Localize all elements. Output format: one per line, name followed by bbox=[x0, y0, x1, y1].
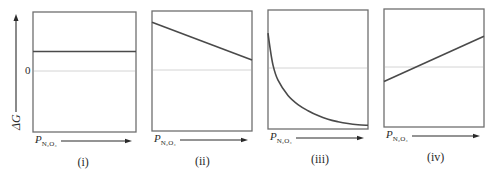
x-axis-label-base: P bbox=[386, 128, 393, 140]
delta-g-vs-pressure-figure bbox=[0, 0, 498, 182]
x-axis-label: PN₂O₄ bbox=[154, 132, 176, 147]
x-axis-arrowhead-icon bbox=[125, 139, 132, 144]
panel-iii bbox=[268, 10, 368, 140]
y-axis-arrowhead-icon bbox=[14, 14, 19, 21]
y-axis-label: ΔG bbox=[9, 114, 24, 130]
x-axis-label: PN₂O₄ bbox=[35, 133, 57, 148]
panel-label-ii: (ii) bbox=[195, 154, 210, 169]
panel-iv bbox=[384, 9, 484, 138]
x-axis-arrowhead-icon bbox=[241, 138, 248, 143]
plot-frame bbox=[384, 9, 484, 127]
x-axis-arrowhead-icon bbox=[473, 134, 480, 139]
x-axis-label-subscript: N₂O₄ bbox=[393, 135, 408, 143]
x-axis-label-base: P bbox=[270, 130, 277, 142]
panels-layer bbox=[33, 9, 484, 143]
x-axis-label-subscript: N₂O₄ bbox=[42, 140, 57, 148]
plot-frame bbox=[152, 11, 252, 131]
panel-ii bbox=[152, 11, 252, 142]
plot-frame bbox=[268, 10, 368, 129]
panel-label-i: (i) bbox=[78, 155, 89, 170]
panel-i bbox=[33, 12, 136, 143]
x-axis-label-subscript: N₂O₄ bbox=[161, 139, 176, 147]
x-axis-label: PN₂O₄ bbox=[270, 130, 292, 145]
zero-tick-label: 0 bbox=[25, 64, 31, 76]
panel-label-iv: (iv) bbox=[427, 150, 444, 165]
x-axis-label-base: P bbox=[35, 133, 42, 145]
x-axis-label: PN₂O₄ bbox=[386, 128, 408, 143]
x-axis-label-base: P bbox=[154, 132, 161, 144]
x-axis-arrowhead-icon bbox=[357, 136, 364, 141]
x-axis-label-subscript: N₂O₄ bbox=[277, 137, 292, 145]
plot-frame bbox=[33, 12, 136, 132]
panel-label-iii: (iii) bbox=[311, 152, 329, 167]
